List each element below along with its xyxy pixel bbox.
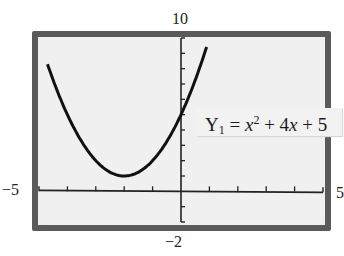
parabola-curve <box>48 47 207 176</box>
equation-text: Y1 = x2 + 4x + 5 <box>205 113 327 138</box>
equation-label: Y1 = x2 + 4x + 5 <box>196 108 342 136</box>
